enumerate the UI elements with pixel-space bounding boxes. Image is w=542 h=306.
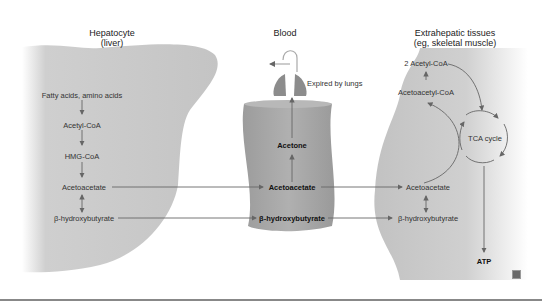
label-liver-bhb: β-hydroxybutyrate: [54, 215, 114, 223]
lungs-icon: [270, 51, 307, 96]
header-hepatocyte: Hepatocyte (liver): [89, 28, 135, 49]
blood-vessel: [243, 101, 335, 231]
header-hepatocyte-title: Hepatocyte: [89, 28, 135, 38]
label-blood-acetoacetate: Acetoacetate: [269, 184, 316, 192]
label-extra-acetoacetate: Acetoacetate: [406, 184, 450, 192]
label-acetoacetyl-coa: Acetoacetyl-CoA: [398, 89, 454, 97]
divider: [0, 299, 542, 301]
header-hepatocyte-sub: (liver): [89, 38, 135, 48]
label-liver-acetoacetate: Acetoacetate: [62, 184, 106, 192]
label-2-acetyl-coa: 2 Acetyl-CoA: [404, 60, 447, 68]
header-blood: Blood: [273, 28, 296, 38]
label-tca-cycle: TCA cycle: [468, 135, 502, 143]
label-blood-bhb: β-hydroxybutyrate: [259, 215, 325, 223]
liver-shape: [22, 44, 218, 272]
header-extrahepatic: Extrahepatic tissues (eg, skeletal muscl…: [414, 28, 497, 49]
header-extrahepatic-sub: (eg, skeletal muscle): [414, 38, 497, 48]
label-expired-by-lungs: Expired by lungs: [307, 80, 362, 88]
label-extra-bhb: β-hydroxybutyrate: [398, 215, 458, 223]
label-liver-acetyl-coa: Acetyl-CoA: [63, 122, 101, 130]
label-acetone: Acetone: [277, 142, 307, 150]
header-extrahepatic-title: Extrahepatic tissues: [414, 28, 497, 38]
label-hmg-coa: HMG-CoA: [65, 153, 100, 161]
expand-icon[interactable]: [512, 270, 521, 279]
label-fatty-acids: Fatty acids, amino acids: [42, 92, 122, 100]
extrahepatic-shape: [374, 48, 528, 280]
label-atp: ATP: [477, 258, 491, 266]
